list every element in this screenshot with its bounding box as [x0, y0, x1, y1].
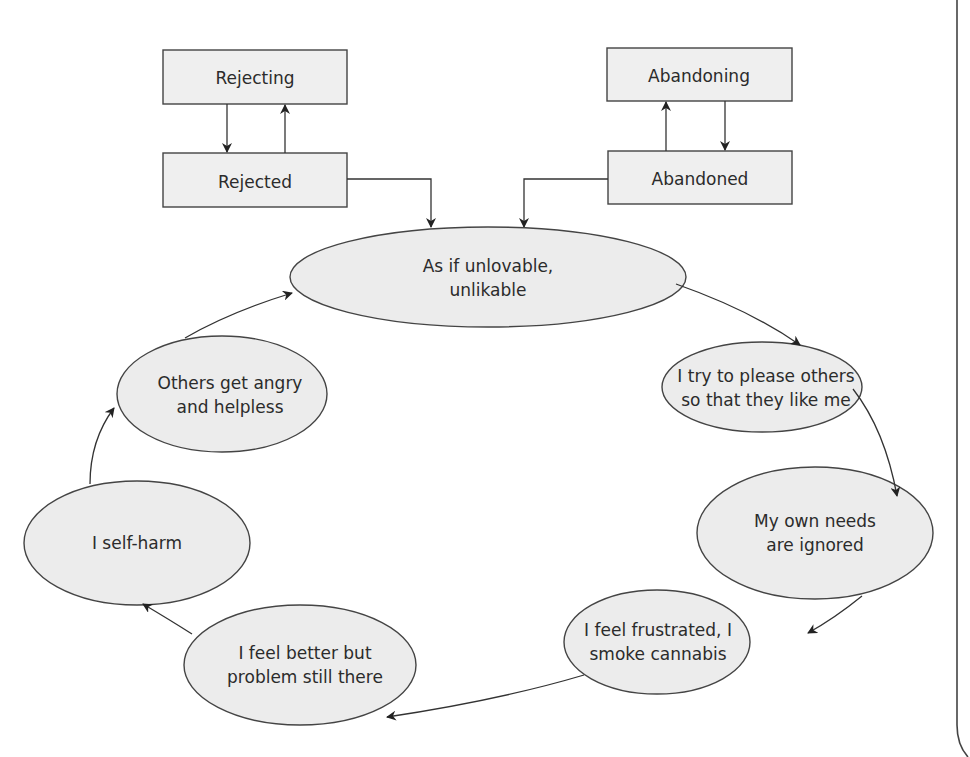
box-abandoned-label: Abandoned — [652, 169, 749, 189]
node-unlovable-line2: unlikable — [450, 280, 527, 300]
arrow-needs-to-frustrated — [808, 596, 862, 633]
arrow-unlovable-to-please — [676, 284, 800, 345]
frame-border — [957, 0, 968, 757]
box-abandoning: Abandoning — [607, 48, 792, 101]
node-better-line1: I feel better but — [238, 643, 371, 663]
node-angry-line1: Others get angry — [158, 373, 303, 393]
arrow-better-to-selfharm — [143, 604, 192, 634]
node-unlovable: As if unlovable, unlikable — [290, 227, 686, 327]
node-self-harm: I self-harm — [24, 481, 250, 605]
node-others-angry: Others get angry and helpless — [117, 336, 327, 452]
box-rejecting: Rejecting — [163, 50, 347, 104]
cycle-diagram: Rejecting Rejected Abandoning Abandoned … — [0, 0, 970, 757]
node-needs-line1: My own needs — [754, 511, 876, 531]
node-frustrated-line1: I feel frustrated, I — [584, 620, 732, 640]
node-please-others: I try to please others so that they like… — [662, 342, 862, 432]
node-angry-line2: and helpless — [176, 397, 283, 417]
node-feel-better: I feel better but problem still there — [184, 605, 416, 725]
node-please-line1: I try to please others — [677, 366, 854, 386]
arrow-abandoned-to-unlovable — [524, 179, 608, 227]
node-selfharm-line1: I self-harm — [92, 533, 182, 553]
box-rejecting-label: Rejecting — [216, 68, 295, 88]
box-rejected-label: Rejected — [218, 172, 292, 192]
node-unlovable-line1: As if unlovable, — [423, 256, 554, 276]
node-please-line2: so that they like me — [681, 390, 851, 410]
box-abandoned: Abandoned — [608, 151, 792, 204]
node-frustrated-line2: smoke cannabis — [589, 644, 726, 664]
node-better-line2: problem still there — [227, 667, 383, 687]
box-abandoning-label: Abandoning — [648, 66, 750, 86]
arrow-frustrated-to-better — [387, 675, 584, 717]
node-needs-line2: are ignored — [766, 535, 863, 555]
box-rejected: Rejected — [163, 153, 347, 207]
arrow-angry-to-unlovable — [185, 293, 292, 338]
node-frustrated: I feel frustrated, I smoke cannabis — [564, 590, 750, 694]
arrow-selfharm-to-angry — [90, 408, 114, 484]
node-own-needs: My own needs are ignored — [697, 467, 933, 599]
arrow-rejected-to-unlovable — [347, 179, 431, 227]
